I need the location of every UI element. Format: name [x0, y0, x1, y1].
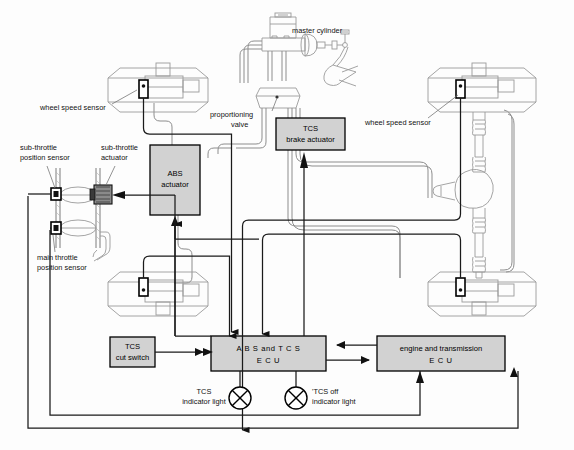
- sub-throttle-position-sensor-label-line2: position sensor: [20, 153, 70, 162]
- wire-fr-speed-sensor: [243, 98, 461, 430]
- main-throttle-position-sensor-label-line1: main throttle: [37, 253, 78, 262]
- wheel-speed-sensor-left-label: wheel speed sensor: [39, 103, 106, 112]
- tcs-indicator-light-label-line1: TCS: [197, 387, 212, 396]
- abs-actuator-label-line1: ABS: [167, 169, 182, 178]
- engine-transmission-ecu-label-line1: engine and transmission: [400, 344, 482, 353]
- tcs-indicator-light: [229, 387, 251, 409]
- wire-outer-return-loop: [28, 196, 518, 428]
- driveshaft-differential-assembly: [433, 112, 493, 278]
- hydraulic-lines-master-cylinder: [240, 41, 286, 83]
- sub-throttle-position-sensor-label-line1: sub-throttle: [20, 143, 57, 152]
- master-cylinder-assembly: [262, 13, 358, 86]
- wire-inner-return-loop: [50, 230, 420, 415]
- tcs-cut-switch-box[interactable]: TCS cut switch: [110, 337, 155, 367]
- tcs-brake-actuator-label-line2: brake actuator: [286, 135, 335, 144]
- abs-tcs-system-diagram: ABS actuator TCS brake actuator A B S an…: [0, 0, 574, 450]
- engine-ecu-input-arrowhead-outer: [510, 367, 518, 377]
- rear-right-wheel-brake: [428, 272, 536, 316]
- abs-tcs-ecu-label-line1: A B S and T C S: [236, 344, 300, 353]
- proportioning-valve-label-line1: proportioning: [210, 110, 253, 119]
- tcs-off-indicator-light-label-line1: 'TCS off: [312, 387, 339, 396]
- diagram-canvas: ABS actuator TCS brake actuator A B S an…: [0, 0, 574, 450]
- sub-throttle-actuator-label-line2: actuator: [101, 153, 128, 162]
- tcs-brake-actuator-label-line1: TCS: [303, 124, 318, 133]
- tcs-brake-actuator-box: TCS brake actuator: [276, 118, 345, 150]
- tcs-off-indicator-light-label-line2: indicator light: [312, 397, 356, 406]
- abs-tcs-ecu-label-line2: E C U: [257, 356, 280, 365]
- sub-throttle-actuator-input-arrowhead: [112, 191, 125, 199]
- wheel-speed-sensor-right-label: wheel speed sensor: [364, 118, 431, 127]
- tcs-cut-switch-label-line1: TCS: [125, 342, 140, 351]
- tcs-off-indicator-light: [285, 387, 307, 409]
- tcs-indicator-light-label-line2: indicator light: [182, 397, 226, 406]
- master-cylinder-label: master cylinder: [292, 26, 343, 35]
- throttle-body-assembly: [51, 168, 112, 261]
- engine-ecu-input-arrowhead-inner: [416, 371, 424, 383]
- wire-rr-speed-sensor: [263, 234, 461, 334]
- rear-left-wheel-brake: [108, 272, 208, 316]
- abs-and-tcs-ecu-box: A B S and T C S E C U: [211, 336, 326, 371]
- proportioning-valve-label-line2: valve: [231, 120, 248, 129]
- engine-transmission-ecu-label-line2: E C U: [429, 356, 452, 365]
- front-right-wheel-brake: [428, 63, 536, 112]
- proportioning-valve: [256, 88, 300, 108]
- sub-throttle-actuator-body: [90, 185, 112, 204]
- tcs-cut-switch-label-line2: cut switch: [116, 353, 149, 362]
- sub-throttle-actuator-label-line1: sub-throttle: [101, 143, 138, 152]
- main-throttle-position-sensor-label-line2: position sensor: [37, 263, 87, 272]
- engine-and-transmission-ecu-box: engine and transmission E C U: [377, 336, 505, 371]
- front-left-wheel-brake: [108, 63, 208, 112]
- abs-actuator-label-line2: actuator: [161, 180, 189, 189]
